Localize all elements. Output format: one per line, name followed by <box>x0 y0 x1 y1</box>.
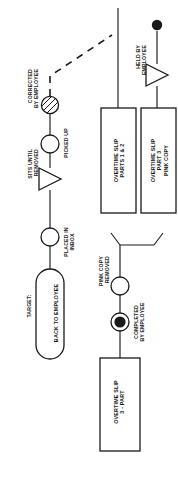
label-corrected-by-employee: CORRECTED BY EMPLOYEE <box>28 69 40 131</box>
node-picked-up <box>41 135 59 153</box>
label-picked-up: PICKED UP <box>64 118 70 168</box>
label-overtime-slip-part-3: OVERTIME SLIP PART 3 PINK COPY <box>150 112 169 209</box>
label-sits-until-removed: SITS UNTIL REMOVED <box>28 149 40 204</box>
label-back-to-employee: BACK TO EMPLOYEE <box>53 274 59 352</box>
label-target-caption: TARGET: <box>27 278 33 334</box>
node-back-to-employee <box>36 269 64 359</box>
node-held-by-employee-triangle <box>146 64 168 86</box>
node-sits-until-removed-triangle <box>39 168 61 190</box>
label-start-document: OVERTIME SLIP 3 - PART <box>113 357 126 447</box>
connector-branch-leg-right <box>154 233 163 245</box>
label-completed-by-employee: COMPLETED BY EMPLOYEE <box>134 292 146 352</box>
connector-branch-leg-left <box>111 233 120 245</box>
node-pink-copy-removed <box>111 277 129 295</box>
connector-dashed-return <box>50 35 112 96</box>
label-placed-in-inbox: PLACED IN INBOX <box>64 216 76 268</box>
label-held-by-employee: HELD BY EMPLOYEE <box>136 45 148 100</box>
label-overtime-slip-parts-1-2: OVERTIME SLIP PARTS 1 & 2 <box>113 112 126 209</box>
label-pink-copy-removed: PINK COPY REMOVED <box>99 256 111 316</box>
node-end-terminator-dot <box>152 20 162 30</box>
node-completed-by-employee-core <box>114 316 125 327</box>
node-placed-in-inbox <box>41 228 59 246</box>
